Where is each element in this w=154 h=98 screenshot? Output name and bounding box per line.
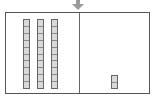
unit-cell — [52, 82, 57, 88]
ten-rod — [37, 19, 44, 89]
ten-rod — [23, 19, 30, 89]
unit-cell — [52, 55, 57, 62]
unit-cell — [112, 83, 117, 89]
unit-cell — [38, 48, 43, 55]
unit-cell — [24, 34, 29, 41]
unit-cell — [38, 27, 43, 34]
unit-cell — [24, 61, 29, 68]
unit-cell — [38, 55, 43, 62]
unit-cell — [52, 41, 57, 48]
unit-cell — [38, 41, 43, 48]
column-divider — [79, 13, 80, 93]
unit-cell — [24, 27, 29, 34]
unit-cell — [52, 34, 57, 41]
unit-cell — [52, 48, 57, 55]
unit-cell — [24, 41, 29, 48]
unit-cell — [38, 68, 43, 75]
unit-cell — [24, 48, 29, 55]
unit-cell — [24, 82, 29, 88]
unit-cell — [38, 82, 43, 88]
unit-cell — [24, 55, 29, 62]
unit-cell — [52, 75, 57, 82]
unit-cell — [24, 68, 29, 75]
ones-rod — [111, 75, 118, 89]
unit-cell — [38, 75, 43, 82]
unit-cell — [24, 20, 29, 27]
unit-cell — [52, 20, 57, 27]
unit-cell — [38, 34, 43, 41]
unit-cell — [38, 61, 43, 68]
place-value-frame — [5, 12, 150, 94]
down-arrow-icon — [72, 0, 84, 10]
unit-cell — [52, 27, 57, 34]
unit-cell — [52, 68, 57, 75]
ten-rod — [51, 19, 58, 89]
unit-cell — [38, 20, 43, 27]
unit-cell — [24, 75, 29, 82]
unit-cell — [52, 61, 57, 68]
